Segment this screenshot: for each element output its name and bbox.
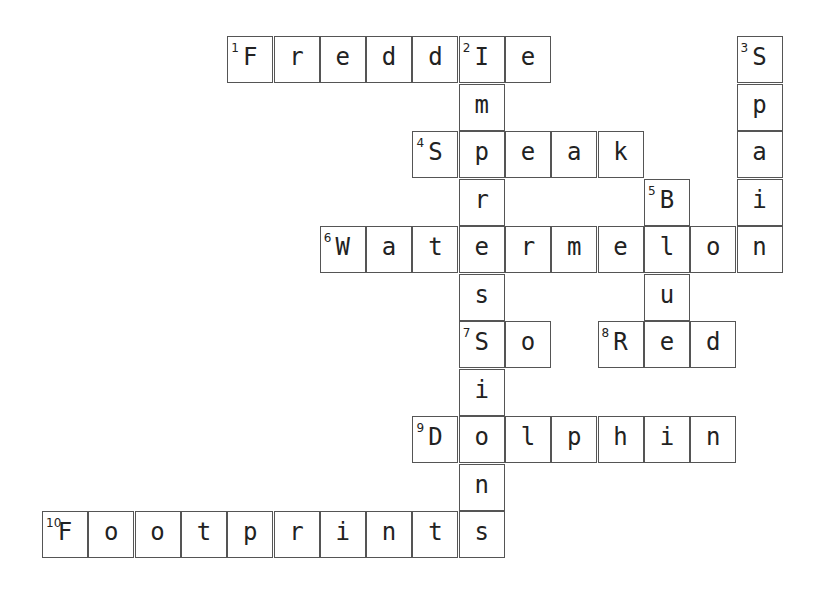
crossword-cell[interactable]: l [644, 226, 690, 273]
cell-letter: F [43, 518, 87, 546]
crossword-cell[interactable]: o [88, 511, 134, 558]
cell-letter: k [599, 138, 643, 166]
crossword-cell[interactable]: 3S [737, 36, 783, 83]
cell-letter: o [89, 518, 133, 546]
crossword-cell[interactable]: e [644, 321, 690, 368]
cell-letter: o [460, 423, 504, 451]
cell-letter: t [413, 518, 457, 546]
crossword-cell[interactable]: t [181, 511, 227, 558]
crossword-cell[interactable]: 8R [598, 321, 644, 368]
crossword-cell[interactable]: o [505, 321, 551, 368]
crossword-cell[interactable]: p [227, 511, 273, 558]
crossword-cell[interactable]: l [505, 416, 551, 463]
cell-letter: e [645, 328, 689, 356]
cell-letter: s [460, 281, 504, 309]
crossword-cell[interactable]: p [737, 84, 783, 131]
cell-letter: B [645, 186, 689, 214]
crossword-cell[interactable]: e [505, 36, 551, 83]
cell-letter: h [599, 423, 643, 451]
cell-letter: e [506, 43, 550, 71]
cell-letter: d [367, 43, 411, 71]
cell-letter: r [506, 233, 550, 261]
crossword-cell[interactable]: o [135, 511, 181, 558]
crossword-cell[interactable]: r [274, 511, 320, 558]
crossword-cell[interactable]: s [459, 274, 505, 321]
crossword-cell[interactable]: h [598, 416, 644, 463]
cell-letter: a [552, 138, 596, 166]
cell-letter: u [645, 281, 689, 309]
cell-letter: r [275, 43, 319, 71]
crossword-cell[interactable]: d [690, 321, 736, 368]
crossword-cell[interactable]: 4S [412, 131, 458, 178]
cell-letter: i [645, 423, 689, 451]
crossword-cell[interactable]: t [412, 226, 458, 273]
crossword-cell[interactable]: t [412, 511, 458, 558]
cell-letter: e [321, 43, 365, 71]
crossword-cell[interactable]: p [551, 416, 597, 463]
cell-letter: m [552, 233, 596, 261]
cell-letter: D [413, 423, 457, 451]
cell-letter: i [321, 518, 365, 546]
crossword-cell[interactable]: o [690, 226, 736, 273]
crossword-cell[interactable]: n [690, 416, 736, 463]
crossword-cell[interactable]: 2I [459, 36, 505, 83]
crossword-cell[interactable]: 10F [42, 511, 88, 558]
crossword-cell[interactable]: n [366, 511, 412, 558]
crossword-cell[interactable]: d [366, 36, 412, 83]
cell-letter: W [321, 233, 365, 261]
cell-letter: i [460, 376, 504, 404]
cell-letter: n [691, 423, 735, 451]
crossword-cell[interactable]: k [598, 131, 644, 178]
cell-letter: S [460, 328, 504, 356]
cell-letter: S [413, 138, 457, 166]
cell-letter: t [413, 233, 457, 261]
cell-letter: R [599, 328, 643, 356]
crossword-cell[interactable]: e [320, 36, 366, 83]
cell-letter: a [738, 138, 782, 166]
cell-letter: e [506, 138, 550, 166]
crossword-cell[interactable]: p [459, 131, 505, 178]
crossword-cell[interactable]: r [505, 226, 551, 273]
crossword-cell[interactable]: n [459, 464, 505, 511]
crossword-cell[interactable]: n [737, 226, 783, 273]
crossword-cell[interactable]: i [459, 369, 505, 416]
crossword-cell[interactable]: r [459, 179, 505, 226]
crossword-cell[interactable]: o [459, 416, 505, 463]
cell-letter: l [645, 233, 689, 261]
crossword-cell[interactable]: u [644, 274, 690, 321]
crossword-cell[interactable]: a [551, 131, 597, 178]
crossword-cell[interactable]: d [412, 36, 458, 83]
crossword-cell[interactable]: i [737, 179, 783, 226]
crossword-cell[interactable]: 7S [459, 321, 505, 368]
cell-letter: l [506, 423, 550, 451]
crossword-cell[interactable]: 9D [412, 416, 458, 463]
crossword-cell[interactable]: 1F [227, 36, 273, 83]
crossword-cell[interactable]: m [551, 226, 597, 273]
crossword-cell[interactable]: m [459, 84, 505, 131]
cell-letter: e [460, 233, 504, 261]
cell-letter: d [691, 328, 735, 356]
cell-letter: i [738, 186, 782, 214]
crossword-cell[interactable]: 5B [644, 179, 690, 226]
crossword-cell[interactable]: i [320, 511, 366, 558]
crossword-cell[interactable]: s [459, 511, 505, 558]
cell-letter: s [460, 518, 504, 546]
crossword-cell[interactable]: a [737, 131, 783, 178]
cell-letter: p [552, 423, 596, 451]
crossword-cell[interactable]: e [505, 131, 551, 178]
crossword-cell[interactable]: 6W [320, 226, 366, 273]
cell-letter: o [506, 328, 550, 356]
crossword-cell[interactable]: a [366, 226, 412, 273]
cell-letter: o [136, 518, 180, 546]
cell-letter: e [599, 233, 643, 261]
crossword-cell[interactable]: e [598, 226, 644, 273]
cell-letter: p [738, 91, 782, 119]
cell-letter: m [460, 91, 504, 119]
cell-letter: S [738, 43, 782, 71]
cell-letter: o [691, 233, 735, 261]
cell-letter: d [413, 43, 457, 71]
crossword-cell[interactable]: e [459, 226, 505, 273]
crossword-cell[interactable]: r [274, 36, 320, 83]
crossword-cell[interactable]: i [644, 416, 690, 463]
cell-letter: a [367, 233, 411, 261]
